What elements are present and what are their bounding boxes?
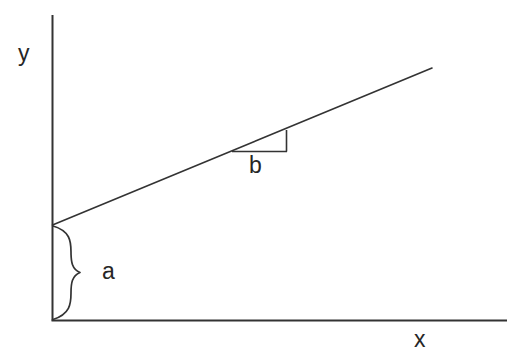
figure-canvas [0, 0, 531, 363]
slope-label: b [249, 154, 262, 177]
intercept-brace [53, 226, 80, 320]
line-graph-figure: y x a b [0, 0, 531, 363]
intercept-label: a [102, 260, 115, 283]
x-axis-label: x [414, 328, 426, 351]
y-axis-label: y [18, 42, 30, 65]
regression-line [53, 68, 433, 225]
